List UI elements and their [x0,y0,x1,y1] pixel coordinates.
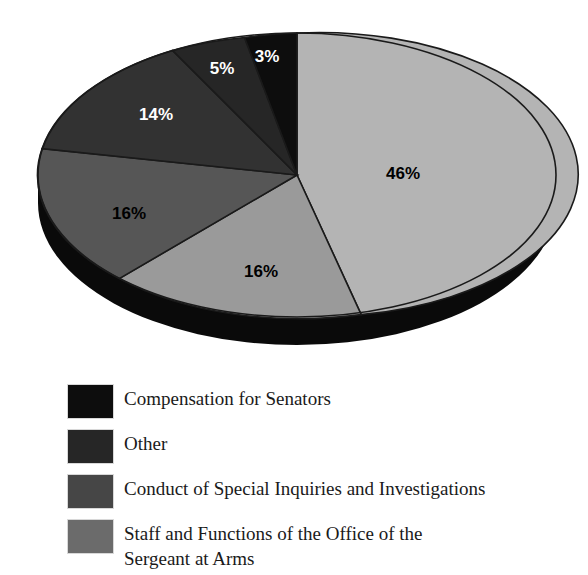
legend-label-other: Other [124,427,167,456]
legend-label-staff-and-functions: Staff and Functions of the Office of the… [124,517,489,571]
pie-slices [38,32,579,318]
legend-swatch-staff-and-functions [67,519,114,554]
legend-label-conduct-of-special-inquiries: Conduct of Special Inquiries and Investi… [124,472,485,501]
pie-chart-area: 46% 16% 16% 14% 5% 3% [0,0,588,375]
legend-swatch-conduct-of-special-inquiries [67,474,114,509]
legend-item-other[interactable]: Other [0,427,588,465]
legend-swatch-other [67,429,114,464]
slice-label-16-left: 16% [112,204,146,223]
slice-label-16-lower: 16% [244,262,278,281]
legend-item-compensation-for-senators[interactable]: Compensation for Senators [0,382,588,420]
slice-label-5: 5% [210,59,235,78]
pie-chart-svg: 46% 16% 16% 14% 5% 3% [0,0,588,375]
slice-label-3: 3% [255,47,280,66]
slice-label-46: 46% [386,164,420,183]
legend-item-conduct-of-special-inquiries[interactable]: Conduct of Special Inquiries and Investi… [0,472,588,510]
slice-label-14: 14% [139,105,173,124]
legend-label-compensation-for-senators: Compensation for Senators [124,382,331,411]
legend-item-staff-and-functions[interactable]: Staff and Functions of the Office of the… [0,517,588,571]
chart-legend: Compensation for Senators Other Conduct … [0,382,588,575]
legend-swatch-compensation-for-senators [67,384,114,419]
